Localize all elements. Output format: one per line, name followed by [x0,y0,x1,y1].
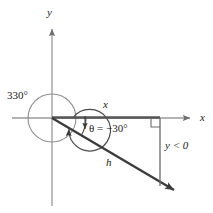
hypotenuse-label: h [106,157,112,168]
theta-equation-label: θ = −30° [89,123,128,134]
side-x-label: x [103,99,108,110]
rotation-angle-label: 330° [7,90,28,101]
x-axis-label: x [200,112,205,123]
geometry-figure: 330° y x x θ = −30° h y < 0 [0,0,213,213]
right-angle-marker [151,118,160,127]
y-axis-label: y [47,7,52,18]
y-negative-label: y < 0 [165,140,188,151]
